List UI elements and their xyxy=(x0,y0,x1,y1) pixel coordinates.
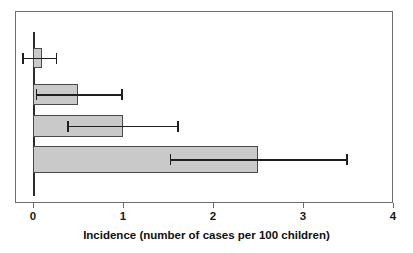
x-tick-0 xyxy=(33,203,34,208)
error-bar-2 xyxy=(36,89,123,100)
x-tick-1 xyxy=(123,203,124,208)
error-bar-line xyxy=(67,126,179,128)
x-axis-label: Incidence (number of cases per 100 child… xyxy=(0,229,413,241)
x-tick-3 xyxy=(303,203,304,208)
x-tick-2 xyxy=(213,203,214,208)
x-tick-label-3: 3 xyxy=(283,210,323,222)
x-tick-4 xyxy=(393,203,394,208)
x-tick-label-0: 0 xyxy=(13,210,53,222)
error-bar-cap-low xyxy=(22,53,24,64)
error-bar-line xyxy=(22,58,57,60)
error-bar-cap-low xyxy=(170,154,172,165)
error-bar-cap-high xyxy=(346,154,348,165)
x-tick-label-1: 1 xyxy=(103,210,143,222)
plot-area xyxy=(15,11,393,203)
figure-container: 0 1 2 3 4 Incidence (number of cases per… xyxy=(0,0,413,253)
error-bar-cap-high xyxy=(177,121,179,132)
x-tick-label-2: 2 xyxy=(193,210,233,222)
error-bar-4 xyxy=(170,154,348,165)
error-bar-cap-low xyxy=(67,121,69,132)
error-bar-3 xyxy=(67,121,179,132)
error-bar-line xyxy=(36,94,123,96)
error-bar-line xyxy=(170,159,348,161)
error-bar-cap-high xyxy=(56,53,58,64)
x-tick-label-4: 4 xyxy=(373,210,413,222)
error-bar-1 xyxy=(22,53,57,64)
error-bar-cap-low xyxy=(36,89,38,100)
error-bar-cap-high xyxy=(121,89,123,100)
